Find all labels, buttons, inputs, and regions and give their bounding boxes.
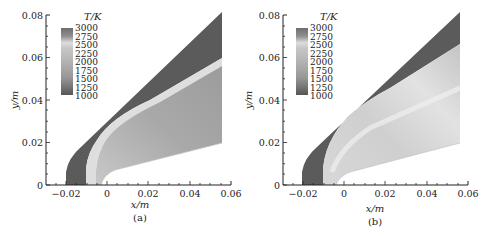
xtick-0.06: 0.06	[220, 188, 241, 199]
xtick-0.04: 0.04	[179, 188, 200, 199]
ytick-0: 0	[274, 180, 280, 191]
xtick-0: 0	[341, 188, 347, 199]
x-axis-label: x/m	[131, 199, 150, 210]
hot-region	[323, 44, 460, 185]
xtick-0.06: 0.06	[457, 188, 478, 199]
ytick-0.06: 0.06	[22, 52, 43, 63]
y-ticks	[283, 26, 287, 185]
colorbar-title: T/K	[84, 11, 102, 22]
ytick-0.04: 0.04	[259, 95, 280, 106]
svg-text:1000: 1000	[310, 91, 333, 101]
ytick-0.08: 0.08	[22, 10, 43, 21]
ytick-0.02: 0.02	[259, 137, 280, 148]
temperature-contour-plot-b: 0 0.02 0.04 0.06 0.08 −0.02 0 0.02 0.04 …	[240, 0, 485, 237]
panel-label-a: (a)	[133, 212, 147, 223]
xtick-0.04: 0.04	[416, 188, 437, 199]
panel-a: 0 0.02 0.04 0.06 0.08 −0.02 0 0.02 0.04 …	[0, 0, 242, 237]
y-ticks	[46, 26, 50, 185]
y-axis-label: y/m	[243, 91, 254, 111]
panel-b: 0 0.02 0.04 0.06 0.08 −0.02 0 0.02 0.04 …	[240, 0, 482, 237]
xtick-0.02: 0.02	[374, 188, 395, 199]
temperature-contour-plot-a: 0 0.02 0.04 0.06 0.08 −0.02 0 0.02 0.04 …	[0, 0, 242, 237]
xtick-neg0.02: −0.02	[288, 188, 317, 199]
colorbar: T/K 3000 2750 2500 2250 2000 1750 1500 1…	[61, 11, 102, 101]
xtick-0.02: 0.02	[137, 188, 158, 199]
ytick-0.06: 0.06	[259, 52, 280, 63]
colorbar: T/K 3000 2750 2500 2250 2000 1750 1500 1…	[296, 11, 338, 101]
ytick-0: 0	[37, 180, 43, 191]
ytick-0.08: 0.08	[259, 10, 280, 21]
colorbar-title: T/K	[320, 11, 338, 22]
ytick-0.02: 0.02	[22, 137, 43, 148]
xtick-0: 0	[104, 188, 110, 199]
x-axis-label: x/m	[366, 203, 385, 214]
svg-text:1000: 1000	[75, 91, 98, 101]
xtick-neg0.02: −0.02	[51, 188, 80, 199]
panel-label-b: (b)	[368, 216, 382, 227]
y-axis-label: y/m	[9, 91, 20, 111]
ytick-0.04: 0.04	[22, 95, 43, 106]
